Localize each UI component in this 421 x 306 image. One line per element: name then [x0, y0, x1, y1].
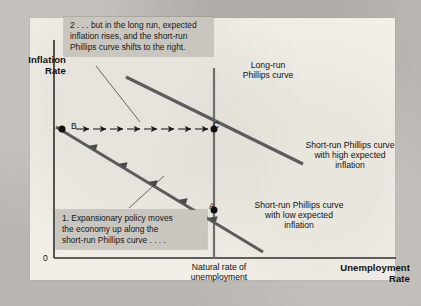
callout-2-leader-line	[96, 66, 140, 122]
short-run-high-inflation-label: Short-run Phillips curve with high expec…	[288, 140, 412, 170]
phillips-curve-figure: Inflation Rate Unemployment Rate Long-ru…	[0, 0, 421, 306]
callout-long-run-shift: 2 . . . but in the long run, expected in…	[64, 17, 213, 56]
y-axis-title: Inflation Rate	[8, 54, 66, 76]
point-b-marker	[59, 126, 66, 133]
short-run-low-inflation-label: Short-run Phillips curve with low expect…	[240, 200, 358, 230]
callout-expansionary-policy: 1. Expansionary policy moves the economy…	[56, 210, 207, 249]
natural-rate-tick-label: Natural rate of unemployment	[166, 262, 272, 282]
x-axis-title: Unemployment Rate	[306, 262, 410, 284]
long-run-phillips-curve-label: Long-run Phillips curve	[228, 60, 308, 80]
origin-label: 0	[43, 253, 48, 263]
point-a-label: A	[209, 201, 215, 211]
point-c-label: C	[213, 120, 219, 130]
point-b-label: B	[71, 121, 77, 131]
